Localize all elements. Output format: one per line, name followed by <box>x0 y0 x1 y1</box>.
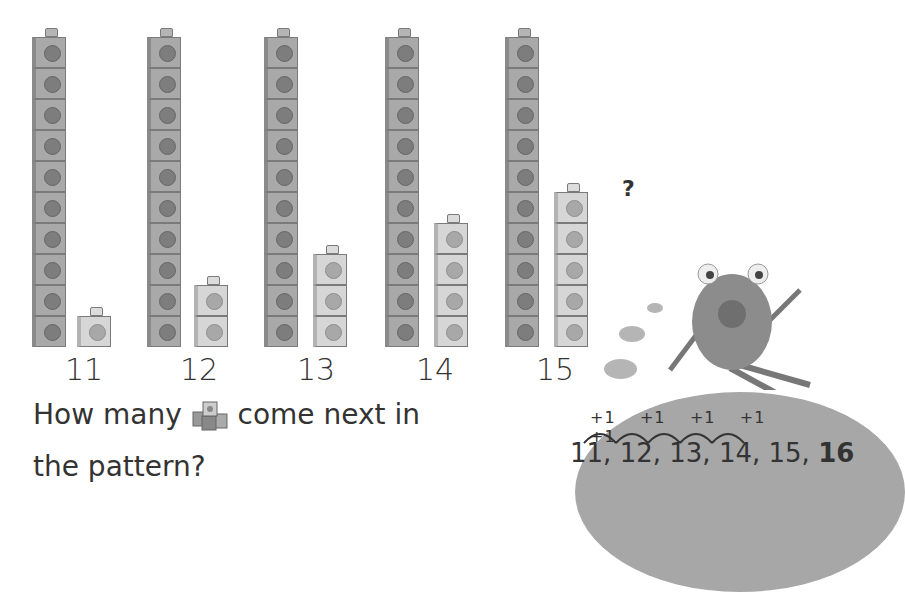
seq-item: 12, <box>620 438 661 468</box>
cube-dot <box>206 324 223 341</box>
spot <box>619 326 645 342</box>
cube <box>32 99 66 130</box>
cube-dot <box>276 293 293 310</box>
cube-stud <box>90 307 103 316</box>
cube <box>194 285 228 316</box>
cube <box>434 254 468 285</box>
cube <box>264 316 298 347</box>
cube-dot <box>397 231 414 248</box>
cube <box>554 223 588 254</box>
cube-dot <box>44 138 61 155</box>
cube-dot <box>276 200 293 217</box>
cube <box>147 254 181 285</box>
cube-dot <box>159 200 176 217</box>
cube-dot <box>159 76 176 93</box>
cube <box>554 285 588 316</box>
cube <box>434 316 468 347</box>
prompt-line-2: the pattern? <box>33 450 206 483</box>
cube <box>434 223 468 254</box>
cube-dot <box>325 324 342 341</box>
cube <box>313 316 347 347</box>
cube-dot <box>89 324 106 341</box>
cube-dot <box>44 76 61 93</box>
cube-dot <box>397 169 414 186</box>
cube <box>313 254 347 285</box>
cube <box>147 316 181 347</box>
cube-dot <box>325 262 342 279</box>
cube-dot <box>446 262 463 279</box>
cube <box>505 316 539 347</box>
cube-dot <box>397 293 414 310</box>
cube <box>505 254 539 285</box>
cube <box>385 192 419 223</box>
cube-dot <box>566 293 583 310</box>
cube-dot <box>446 293 463 310</box>
cube-stud <box>518 28 531 37</box>
cube-dot <box>276 107 293 124</box>
cube <box>32 161 66 192</box>
cube-dot <box>446 324 463 341</box>
cube-dot <box>397 138 414 155</box>
label-11: 11 <box>54 352 114 387</box>
cube-dot <box>397 45 414 62</box>
cube <box>554 316 588 347</box>
cube-dot <box>397 76 414 93</box>
cube <box>505 223 539 254</box>
cube-stud <box>277 28 290 37</box>
cube-dot <box>44 231 61 248</box>
seq-item: 15, <box>769 438 810 468</box>
cube <box>264 285 298 316</box>
cube <box>385 161 419 192</box>
cube <box>385 223 419 254</box>
cube-stud <box>398 28 411 37</box>
cube <box>554 254 588 285</box>
cube <box>505 130 539 161</box>
cube-dot <box>44 200 61 217</box>
cube <box>264 37 298 68</box>
cube-dot <box>276 76 293 93</box>
cube <box>32 223 66 254</box>
cube <box>147 99 181 130</box>
cube-dot <box>159 231 176 248</box>
cube <box>264 192 298 223</box>
cube-dot <box>276 138 293 155</box>
cube <box>385 254 419 285</box>
cube-dot <box>206 293 223 310</box>
cube-dot <box>276 169 293 186</box>
cube-dot <box>276 231 293 248</box>
cube <box>505 37 539 68</box>
cube-stud <box>326 245 339 254</box>
cube-dot <box>446 231 463 248</box>
cube <box>385 130 419 161</box>
cube <box>505 285 539 316</box>
cube <box>77 316 111 347</box>
cube-dot <box>159 45 176 62</box>
seq-item: 13, <box>669 438 710 468</box>
prompt-text: come next in <box>229 398 420 431</box>
cube <box>434 285 468 316</box>
cube <box>264 130 298 161</box>
pattern-answer: 16 <box>818 438 854 468</box>
label-14: 14 <box>405 352 465 387</box>
cube <box>32 68 66 99</box>
cube-dot <box>159 138 176 155</box>
cube-dot <box>566 262 583 279</box>
cube-dot <box>566 324 583 341</box>
cube <box>32 192 66 223</box>
cube-dot <box>517 45 534 62</box>
prompt-line-1: How many come next in <box>33 398 420 432</box>
cube <box>264 223 298 254</box>
cube <box>147 285 181 316</box>
cube-dot <box>397 107 414 124</box>
cube <box>385 37 419 68</box>
cube <box>32 285 66 316</box>
cube-dot <box>276 45 293 62</box>
cube-dot <box>517 262 534 279</box>
cube-dot <box>44 293 61 310</box>
cube-dot <box>325 293 342 310</box>
cube-dot <box>44 324 61 341</box>
cube-dot <box>517 107 534 124</box>
cube <box>264 99 298 130</box>
cube-stud <box>447 214 460 223</box>
cube <box>385 285 419 316</box>
